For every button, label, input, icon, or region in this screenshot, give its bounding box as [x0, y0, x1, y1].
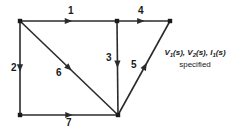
specified-variables-text: V1(s), V2(s), I1(s): [152, 48, 238, 60]
edge-line-3: [117, 21, 118, 115]
specified-word: specified: [152, 60, 238, 70]
edge-label-7: 7: [66, 118, 72, 128]
graph-nodes: [18, 19, 172, 117]
edge-arrowheads: [17, 18, 147, 118]
edge-label-5: 5: [131, 60, 137, 70]
arrowhead-edge-2: [17, 64, 23, 72]
node-bottom-middle: [116, 113, 120, 117]
node-bottom-left: [18, 113, 22, 117]
edge-label-4: 4: [138, 6, 144, 16]
edge-label-3: 3: [106, 53, 112, 63]
arrowhead-edge-4: [137, 18, 145, 24]
edge-lines: [20, 21, 170, 115]
node-top-left: [18, 19, 22, 23]
edge-label-2: 2: [11, 63, 17, 73]
arrowhead-edge-1: [65, 18, 73, 24]
arrowhead-edge-3: [114, 60, 120, 68]
node-top-right: [168, 19, 172, 23]
node-top-middle: [115, 19, 119, 23]
edge-label-1: 1: [68, 6, 74, 16]
figure-canvas: 1 2 3 4 5 6 7 V1(s), V2(s), I1(s) specif…: [0, 0, 239, 135]
edge-label-6: 6: [56, 68, 62, 78]
specified-annotation: V1(s), V2(s), I1(s) specified: [152, 48, 238, 70]
